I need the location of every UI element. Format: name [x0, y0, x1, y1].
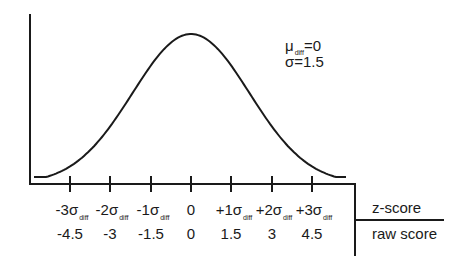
raw-tick-label: -1.5 — [138, 225, 164, 242]
raw-score-row-label: raw score — [372, 225, 437, 242]
z-tick-label: -2σdiff — [96, 201, 129, 218]
z-tick-label: -3σdiff — [56, 201, 89, 218]
z-tick-label: +3σdiff — [296, 201, 333, 218]
raw-tick-label: 4.5 — [302, 225, 323, 242]
raw-tick-label: -3 — [103, 225, 116, 242]
raw-tick-label: -4.5 — [57, 225, 83, 242]
z-tick-label: +2σdiff — [256, 201, 293, 218]
z-tick-label: +1σdiff — [216, 201, 253, 218]
z-tick-label: 0 — [187, 201, 195, 218]
raw-tick-label: 1.5 — [221, 225, 242, 242]
raw-tick-label: 0 — [187, 225, 195, 242]
raw-tick-label: 3 — [268, 225, 276, 242]
z-score-row-label: z-score — [372, 199, 421, 216]
sd-annotation: σ=1.5 — [285, 54, 324, 70]
z-tick-label: -1σdiff — [137, 201, 170, 218]
